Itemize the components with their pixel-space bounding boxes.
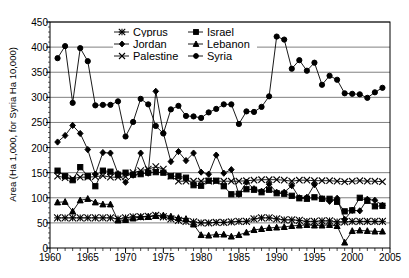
data-point-circle	[100, 102, 105, 107]
data-point-square	[108, 169, 113, 174]
data-point-square	[251, 187, 256, 192]
data-point-square	[194, 30, 199, 35]
data-point-circle	[85, 59, 90, 64]
data-point-circle	[274, 34, 279, 39]
data-point-square	[55, 168, 60, 173]
data-point-circle	[199, 115, 204, 120]
data-point-diamond	[198, 169, 204, 175]
data-point-circle	[365, 95, 370, 100]
data-point-triangle	[92, 199, 98, 205]
data-point-circle	[63, 44, 68, 49]
data-point-diamond	[153, 88, 159, 94]
data-point-circle	[372, 90, 377, 95]
data-point-circle	[138, 96, 143, 101]
data-point-circle	[221, 102, 226, 107]
data-point-square	[244, 187, 249, 192]
data-point-square	[229, 192, 234, 197]
legend-label: Syria	[207, 50, 233, 62]
data-point-circle	[183, 113, 188, 118]
data-point-circle	[55, 56, 60, 61]
data-point-circle	[380, 85, 385, 90]
data-point-square	[372, 204, 377, 209]
data-point-diamond	[138, 150, 144, 156]
data-point-circle	[194, 54, 199, 59]
legend-entry-israel: Israel	[187, 25, 257, 38]
data-point-circle	[176, 103, 181, 108]
series-palestine	[54, 163, 385, 184]
data-point-circle	[282, 37, 287, 42]
data-point-circle	[115, 99, 120, 104]
data-point-square	[267, 187, 272, 192]
data-point-circle	[206, 110, 211, 115]
data-point-square	[259, 190, 264, 195]
data-point-square	[319, 196, 324, 201]
data-point-square	[176, 174, 181, 179]
data-point-circle	[131, 119, 136, 124]
data-point-circle	[191, 114, 196, 119]
data-point-square	[297, 196, 302, 201]
series-line	[58, 167, 383, 182]
data-point-circle	[93, 103, 98, 108]
data-point-circle	[312, 60, 317, 65]
legend-label: Cyprus	[133, 26, 168, 38]
plot-area: CyprusIsraelJordanLebanonPalestineSyria	[0, 0, 409, 278]
legend-entry-lebanon: Lebanon	[187, 37, 257, 50]
data-point-square	[335, 199, 340, 204]
data-point-circle	[214, 106, 219, 111]
data-point-circle	[289, 66, 294, 71]
data-point-circle	[229, 102, 234, 107]
data-point-square	[350, 208, 355, 213]
data-point-diamond	[206, 171, 212, 177]
data-point-circle	[123, 134, 128, 139]
data-point-square	[93, 184, 98, 189]
data-point-circle	[319, 82, 324, 87]
legend-entry-palestine: Palestine	[113, 49, 189, 62]
data-point-square	[78, 165, 83, 170]
data-point-square	[100, 168, 105, 173]
data-point-circle	[350, 91, 355, 96]
data-point-square	[357, 195, 362, 200]
legend-entry-jordan: Jordan	[113, 37, 189, 50]
data-point-square	[85, 174, 90, 179]
data-point-circle	[304, 68, 309, 73]
data-point-square	[199, 183, 204, 188]
data-point-circle	[251, 109, 256, 114]
data-point-circle	[108, 102, 113, 107]
data-point-square	[153, 170, 158, 175]
data-point-square	[365, 198, 370, 203]
data-point-circle	[259, 104, 264, 109]
data-point-circle	[168, 107, 173, 112]
data-point-circle	[70, 100, 75, 105]
data-point-diamond	[357, 208, 363, 214]
data-point-circle	[357, 92, 362, 97]
data-point-square	[304, 196, 309, 201]
legend-label: Jordan	[133, 38, 167, 50]
data-point-square	[289, 193, 294, 198]
data-point-square	[327, 196, 332, 201]
legend-label: Lebanon	[207, 38, 250, 50]
data-point-square	[236, 191, 241, 196]
data-point-circle	[327, 73, 332, 78]
data-point-diamond	[108, 150, 114, 156]
data-point-square	[221, 184, 226, 189]
data-point-square	[274, 191, 279, 196]
data-point-triangle	[342, 239, 348, 245]
legend-label: Palestine	[133, 50, 178, 62]
data-point-diamond	[229, 167, 235, 173]
data-point-circle	[146, 102, 151, 107]
data-point-circle	[267, 94, 272, 99]
legend-entry-syria: Syria	[187, 49, 257, 62]
data-point-diamond	[221, 170, 227, 176]
data-point-circle	[342, 91, 347, 96]
data-point-circle	[335, 77, 340, 82]
chart-figure: Area (Ha 1,000, for Syria Ha 10,000) 050…	[0, 0, 409, 278]
data-point-square	[342, 209, 347, 214]
data-point-circle	[297, 58, 302, 63]
data-point-triangle	[85, 196, 91, 202]
data-point-square	[380, 203, 385, 208]
data-point-circle	[236, 121, 241, 126]
legend: CyprusIsraelJordanLebanonPalestineSyria	[113, 25, 257, 62]
data-point-circle	[244, 109, 249, 114]
data-point-circle	[153, 123, 158, 128]
data-point-diamond	[213, 152, 219, 158]
